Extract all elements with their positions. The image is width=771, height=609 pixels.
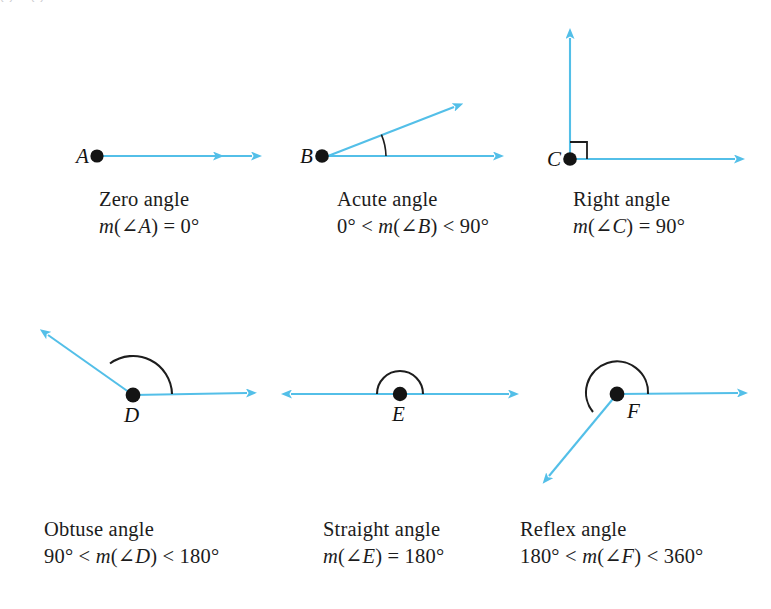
reflex-angle-ray-horizontal	[617, 393, 738, 394]
caption-right-angle-measure: m(∠C) = 90°	[573, 213, 685, 240]
obtuse-measure-upper: < 180°	[157, 545, 219, 567]
obtuse-measure-open: (∠	[111, 545, 135, 567]
right-measure-point: C	[612, 215, 626, 237]
acute-measure-point: B	[418, 215, 431, 237]
zero-measure-relation: = 0°	[158, 215, 199, 237]
straight-measure-m: m	[323, 545, 338, 567]
caption-right-angle: Right angle m(∠C) = 90°	[573, 186, 685, 241]
reflex-measure-upper: < 360°	[641, 545, 703, 567]
vertex-label-a: A	[76, 144, 89, 169]
reflex-angle-vertex-dot	[610, 387, 625, 402]
straight-angle-diagram	[291, 371, 509, 401]
caption-right-angle-name: Right angle	[573, 186, 685, 213]
vertex-label-c: C	[547, 147, 561, 172]
acute-measure-open: (∠	[393, 215, 417, 237]
caption-reflex-angle-measure: 180° < m(∠F) < 360°	[520, 543, 704, 570]
straight-angle-vertex-dot	[393, 387, 407, 401]
obtuse-measure-point: D	[135, 545, 150, 567]
right-angle-diagram	[563, 38, 735, 166]
caption-acute-angle: Acute angle 0° < m(∠B) < 90°	[337, 186, 489, 241]
reflex-angle-diagram	[549, 361, 738, 476]
right-measure-m: m	[573, 215, 588, 237]
reflex-measure-open: (∠	[597, 545, 621, 567]
reflex-measure-m: m	[582, 545, 597, 567]
zero-angle-vertex-dot	[90, 149, 103, 162]
obtuse-angle-diagram	[48, 335, 247, 402]
zero-angle-diagram	[90, 149, 252, 162]
acute-measure-lower: 0° <	[337, 215, 378, 237]
obtuse-angle-arc-marker	[110, 356, 172, 394]
caption-zero-angle-measure: m(∠A) = 0°	[99, 213, 199, 240]
caption-acute-angle-measure: 0° < m(∠B) < 90°	[337, 213, 489, 240]
acute-measure-upper: < 90°	[437, 215, 489, 237]
obtuse-angle-ray-upper-left	[48, 335, 133, 395]
acute-angle-vertex-dot	[315, 149, 329, 163]
vertex-label-f: F	[627, 399, 640, 424]
acute-angle-diagram	[315, 107, 494, 163]
vertex-label-e: E	[392, 402, 405, 427]
straight-measure-point: E	[362, 545, 375, 567]
angle-types-figure: ◡ ◡	[0, 0, 771, 609]
zero-measure-m: m	[99, 215, 114, 237]
obtuse-angle-ray-horizontal	[133, 393, 247, 395]
vertex-label-b: B	[300, 144, 313, 169]
caption-straight-angle: Straight angle m(∠E) = 180°	[323, 516, 444, 571]
caption-straight-angle-measure: m(∠E) = 180°	[323, 543, 444, 570]
caption-obtuse-angle-name: Obtuse angle	[44, 516, 219, 543]
acute-angle-ray-upper	[328, 107, 454, 156]
caption-reflex-angle-name: Reflex angle	[520, 516, 704, 543]
caption-straight-angle-name: Straight angle	[323, 516, 444, 543]
acute-angle-arc-marker	[381, 135, 386, 156]
zero-measure-point: A	[138, 215, 151, 237]
vertex-label-d: D	[124, 403, 139, 428]
reflex-measure-point: F	[622, 545, 635, 567]
right-measure-open: (∠	[588, 215, 612, 237]
obtuse-measure-m: m	[96, 545, 111, 567]
obtuse-measure-lower: 90° <	[44, 545, 96, 567]
caption-zero-angle: Zero angle m(∠A) = 0°	[99, 186, 199, 241]
straight-measure-relation: = 180°	[382, 545, 444, 567]
right-angle-vertex-dot	[563, 152, 577, 166]
caption-zero-angle-name: Zero angle	[99, 186, 199, 213]
right-measure-relation: = 90°	[633, 215, 685, 237]
acute-measure-m: m	[378, 215, 393, 237]
caption-reflex-angle: Reflex angle 180° < m(∠F) < 360°	[520, 516, 704, 571]
caption-acute-angle-name: Acute angle	[337, 186, 489, 213]
reflex-angle-ray-lower-left	[549, 394, 617, 476]
obtuse-angle-vertex-dot	[126, 388, 141, 403]
caption-obtuse-angle-measure: 90° < m(∠D) < 180°	[44, 543, 219, 570]
caption-obtuse-angle: Obtuse angle 90° < m(∠D) < 180°	[44, 516, 219, 571]
reflex-measure-lower: 180° <	[520, 545, 582, 567]
zero-measure-open: (∠	[114, 215, 138, 237]
straight-measure-open: (∠	[338, 545, 362, 567]
